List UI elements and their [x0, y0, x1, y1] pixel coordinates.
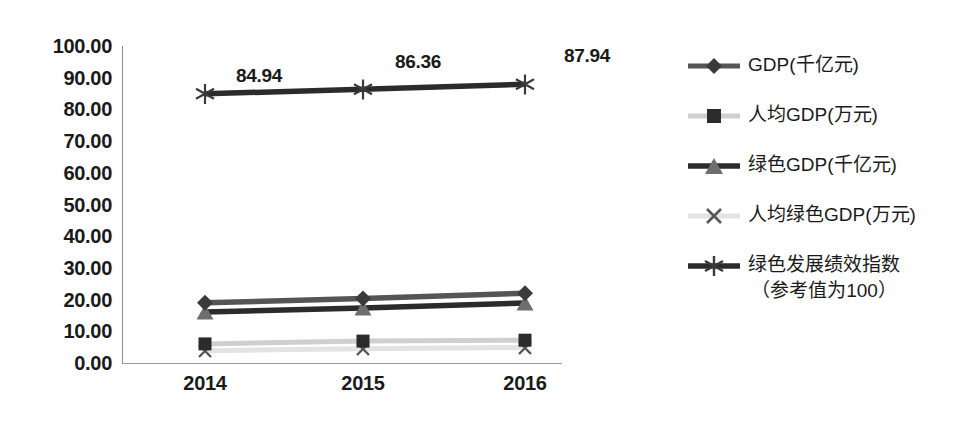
data-label-index-2015: 86.36 [395, 51, 441, 73]
legend-item-gdp-per-capita[interactable]: 人均GDP(万元) [686, 102, 962, 132]
legend-item-green-gdp-per-capita[interactable]: 人均绿色GDP(万元) [686, 202, 962, 232]
x-tick-label-2016: 2016 [470, 372, 580, 395]
series-layer [0, 0, 660, 428]
legend-marker-square-icon [686, 103, 742, 129]
legend-label-gdp-per-capita: 人均GDP(万元) [748, 102, 878, 128]
x-tick-label-2015: 2015 [308, 372, 418, 395]
legend-label-line2: （参考值为100） [748, 278, 900, 304]
plot-area: 100.00 90.00 80.00 70.00 60.00 50.00 40.… [0, 0, 660, 428]
legend-label-gdp: GDP(千亿元) [748, 52, 859, 78]
legend-label-green-gdp: 绿色GDP(千亿元) [748, 152, 897, 178]
data-label-index-2014: 84.94 [236, 65, 282, 87]
legend-label-green-development-index: 绿色发展绩效指数 （参考值为100） [748, 252, 900, 304]
legend-item-gdp[interactable]: GDP(千亿元) [686, 52, 962, 82]
legend-label-line1: 绿色发展绩效指数 [748, 254, 900, 275]
legend-marker-star-icon [686, 253, 742, 279]
legend-marker-triangle-icon [686, 153, 742, 179]
legend-label-green-gdp-per-capita: 人均绿色GDP(万元) [748, 202, 916, 228]
legend-marker-diamond-icon [686, 53, 742, 79]
legend-marker-x-icon [686, 203, 742, 229]
legend-item-green-development-index[interactable]: 绿色发展绩效指数 （参考值为100） [686, 252, 962, 304]
chart-figure: 100.00 90.00 80.00 70.00 60.00 50.00 40.… [0, 0, 962, 428]
x-tick-label-2014: 2014 [150, 372, 260, 395]
legend-item-green-gdp[interactable]: 绿色GDP(千亿元) [686, 152, 962, 182]
chart-legend: GDP(千亿元) 人均GDP(万元) 绿色GDP(千亿元) [686, 52, 962, 324]
data-label-index-2016: 87.94 [564, 45, 610, 67]
